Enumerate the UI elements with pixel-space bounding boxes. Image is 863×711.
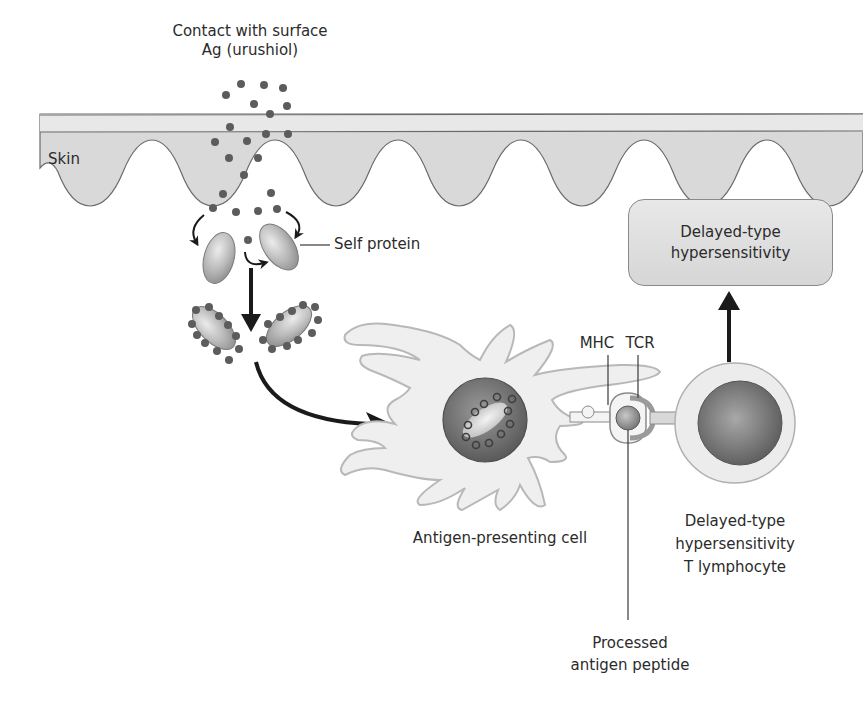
diagram-graphics [0, 0, 863, 711]
uptake-arrow [256, 362, 370, 424]
skin-layer [40, 114, 863, 206]
mhc-tcr-synapse [570, 355, 678, 620]
t-lymphocyte [675, 363, 795, 483]
title-label: Contact with surface Ag (urushiol) [150, 22, 350, 60]
apc-label: Antigen-presenting cell [400, 529, 600, 548]
contact-hypersensitivity-diagram: Contact with surface Ag (urushiol) Skin … [0, 0, 863, 711]
delayed-type-hypersensitivity-box: Delayed-type hypersensitivity [628, 199, 833, 286]
tcr-label: TCR [620, 334, 660, 353]
self-proteins [198, 217, 330, 287]
haptenated-proteins [185, 298, 322, 364]
self-protein-label: Self protein [334, 235, 420, 254]
t-lymphocyte-label: Delayed-type hypersensitivity T lymphocy… [655, 510, 815, 579]
skin-label: Skin [48, 150, 80, 169]
mhc-label: MHC [572, 334, 622, 353]
processed-antigen-peptide-label: Processed antigen peptide [560, 632, 700, 676]
